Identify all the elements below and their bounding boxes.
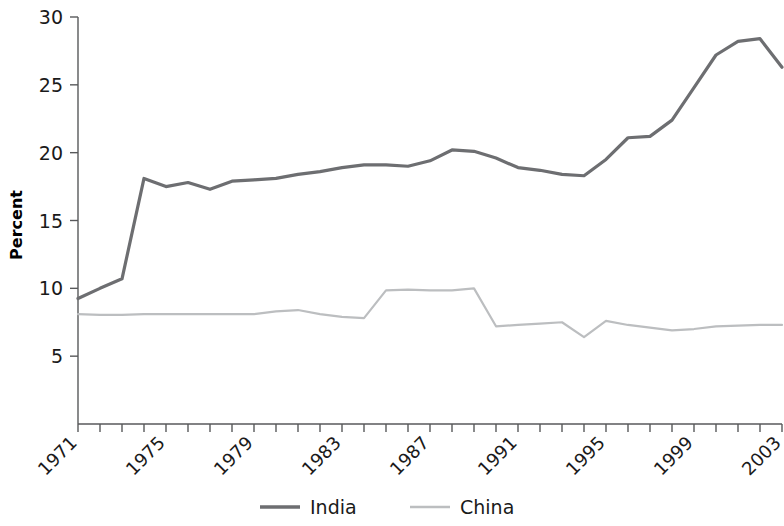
chart-figure: Percent 51015202530 19711975197919831987…	[0, 0, 784, 526]
legend-label-china: China	[460, 496, 514, 518]
y-tick-label: 30	[39, 6, 63, 28]
line-chart: Percent 51015202530 19711975197919831987…	[0, 0, 784, 526]
y-axis-label: Percent	[7, 190, 26, 260]
data-series-group	[78, 39, 782, 337]
x-tick-label-group: 197119751979198319871991199519992003	[34, 432, 784, 479]
y-tick-label: 20	[39, 142, 63, 164]
x-tick-label: 1979	[210, 432, 257, 479]
series-line-india	[78, 39, 782, 299]
x-tick-label: 1987	[386, 432, 433, 479]
chart-legend: IndiaChina	[260, 496, 514, 518]
y-tick-label: 15	[39, 210, 63, 232]
axes-group	[78, 17, 782, 424]
y-tick-group	[70, 17, 78, 356]
y-tick-label: 10	[39, 277, 63, 299]
x-tick-group	[78, 424, 782, 432]
y-tick-label: 5	[51, 345, 63, 367]
x-tick-label: 1995	[562, 432, 609, 479]
y-tick-label: 25	[39, 74, 63, 96]
series-line-china	[78, 288, 782, 337]
x-tick-label: 2003	[738, 432, 784, 479]
legend-label-india: India	[310, 496, 357, 518]
x-tick-label: 1975	[122, 432, 169, 479]
y-axis-label-text: Percent	[7, 190, 26, 260]
x-tick-label: 1971	[34, 432, 81, 479]
x-tick-label: 1991	[474, 432, 521, 479]
x-tick-label: 1999	[650, 432, 697, 479]
x-tick-label: 1983	[298, 432, 345, 479]
y-tick-label-group: 51015202530	[39, 6, 63, 367]
